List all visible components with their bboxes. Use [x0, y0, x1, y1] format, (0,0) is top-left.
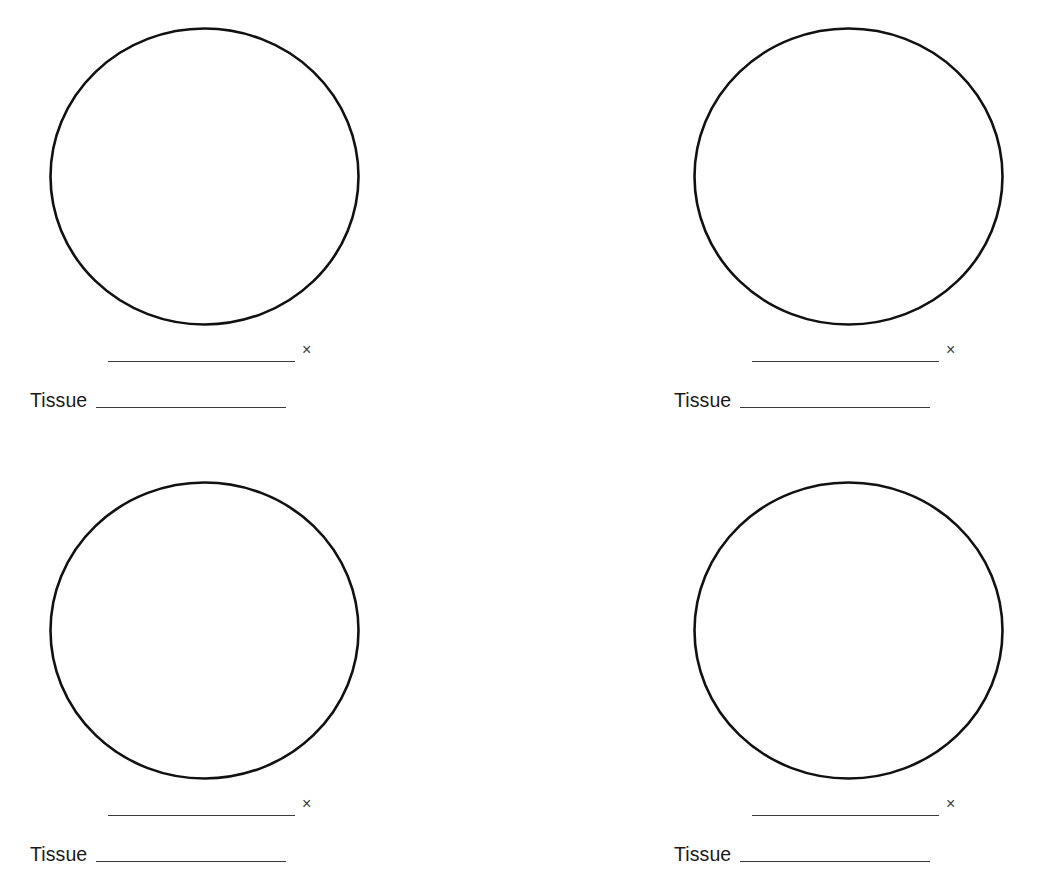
- magnification-input[interactable]: [752, 345, 939, 362]
- observation-panel: × Tissue: [674, 10, 1014, 430]
- tissue-input[interactable]: [96, 845, 286, 862]
- multiplication-icon: ×: [946, 342, 955, 358]
- drawing-circle[interactable]: [693, 481, 1004, 780]
- tissue-row: Tissue: [30, 836, 370, 864]
- magnification-row: ×: [674, 790, 1014, 816]
- drawing-circle[interactable]: [49, 27, 360, 326]
- tissue-input[interactable]: [740, 845, 930, 862]
- magnification-row: ×: [30, 336, 370, 362]
- tissue-row: Tissue: [674, 382, 1014, 410]
- magnification-row: ×: [674, 336, 1014, 362]
- magnification-input[interactable]: [752, 799, 939, 816]
- tissue-label: Tissue: [674, 390, 731, 410]
- multiplication-icon: ×: [302, 342, 311, 358]
- tissue-input[interactable]: [740, 391, 930, 408]
- tissue-label: Tissue: [674, 844, 731, 864]
- magnification-row: ×: [30, 790, 370, 816]
- tissue-label: Tissue: [30, 390, 87, 410]
- multiplication-icon: ×: [946, 796, 955, 812]
- tissue-row: Tissue: [30, 382, 370, 410]
- magnification-input[interactable]: [108, 799, 295, 816]
- tissue-row: Tissue: [674, 836, 1014, 864]
- tissue-label: Tissue: [30, 844, 87, 864]
- tissue-input[interactable]: [96, 391, 286, 408]
- multiplication-icon: ×: [302, 796, 311, 812]
- observation-panel: × Tissue: [30, 10, 370, 430]
- observation-panel: × Tissue: [674, 464, 1014, 872]
- drawing-circle[interactable]: [49, 481, 360, 780]
- observation-panel: × Tissue: [30, 464, 370, 872]
- magnification-input[interactable]: [108, 345, 295, 362]
- drawing-circle[interactable]: [693, 27, 1004, 326]
- worksheet-page: × Tissue × Tissue: [0, 0, 1046, 872]
